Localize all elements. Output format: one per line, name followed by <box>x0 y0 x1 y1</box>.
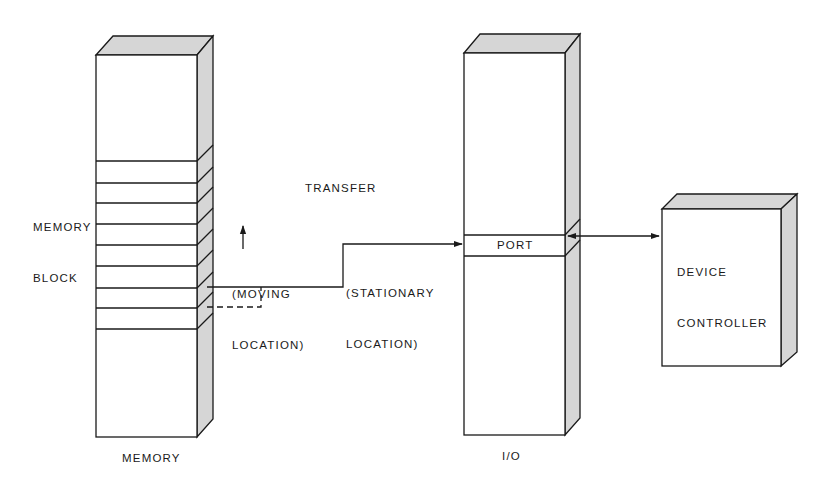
io-top-face <box>464 34 580 53</box>
io-label: I/O <box>502 448 521 465</box>
transfer-label: TRANSFER <box>305 180 377 197</box>
port-label: PORT <box>497 237 534 254</box>
moving-location-label: (MOVING LOCATION) <box>232 252 305 371</box>
io-side-face <box>565 34 580 435</box>
memory-block-label: MEMORY BLOCK <box>33 185 92 304</box>
stationary-location-label: (STATIONARY LOCATION) <box>346 251 435 370</box>
memory-label: MEMORY <box>122 450 181 467</box>
memory-column <box>96 36 213 437</box>
device-side-face <box>781 194 797 366</box>
memory-top-face <box>96 36 213 55</box>
memory-front-face <box>96 55 197 437</box>
io-column <box>464 34 580 435</box>
device-controller-label: DEVICE CONTROLLER <box>677 230 768 349</box>
device-top-face <box>662 194 797 209</box>
